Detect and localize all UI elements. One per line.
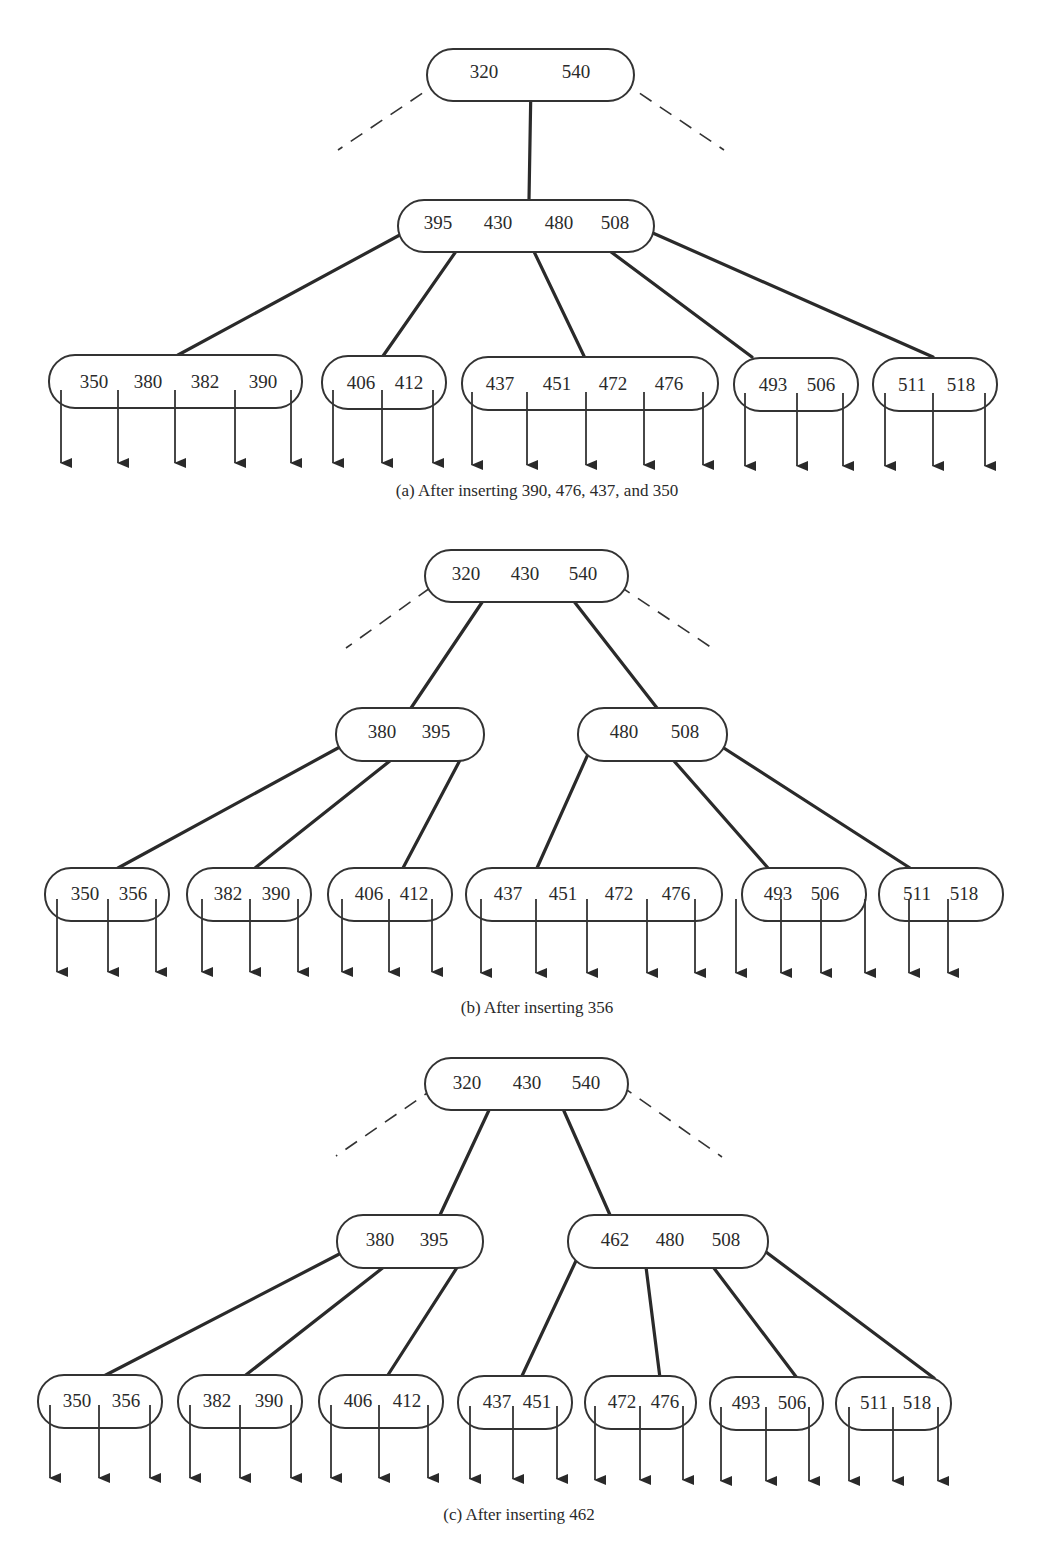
node-key: 356	[112, 1390, 141, 1411]
node-key: 412	[395, 372, 424, 393]
node-key: 406	[347, 372, 376, 393]
node-key: 380	[368, 721, 397, 742]
node-key: 476	[655, 373, 684, 394]
edge	[644, 1251, 660, 1378]
node-key: 430	[511, 563, 540, 584]
leaf-node: 350 356	[45, 868, 169, 921]
figure-caption: (b) After inserting 356	[461, 998, 614, 1017]
edge	[556, 1093, 610, 1215]
node-key: 506	[811, 883, 840, 904]
node-key: 320	[453, 1072, 482, 1093]
node-key: 518	[950, 883, 979, 904]
figure-a: 320 540 395 430 480 508 350 380 382 390 …	[49, 49, 997, 500]
edge	[758, 1246, 934, 1378]
node-key: 390	[255, 1390, 284, 1411]
node-key: 480	[610, 721, 639, 742]
node-key: 511	[903, 883, 931, 904]
node-key: 476	[662, 883, 691, 904]
edge	[562, 586, 657, 708]
node-key: 406	[344, 1390, 373, 1411]
leaf-node: 511 518	[879, 868, 1003, 921]
node-key: 506	[778, 1392, 807, 1413]
node-key: 350	[71, 883, 100, 904]
node-key: 320	[452, 563, 481, 584]
node-key: 506	[807, 374, 836, 395]
leaf-node: 437 451	[458, 1376, 572, 1429]
node-key: 472	[605, 883, 634, 904]
root-node: 320 430 540	[425, 550, 628, 602]
internal-node: 395 430 480 508	[398, 200, 654, 252]
node-key: 412	[400, 883, 429, 904]
edge	[118, 742, 349, 868]
node-key: 493	[732, 1392, 761, 1413]
node-key: 518	[903, 1392, 932, 1413]
internal-node: 380 395	[337, 1215, 483, 1268]
edge	[383, 237, 466, 356]
root-node: 320 540	[427, 49, 634, 101]
node-key: 451	[523, 1391, 552, 1412]
node-key: 406	[355, 883, 384, 904]
node-key: 430	[484, 212, 513, 233]
node-key: 380	[134, 371, 163, 392]
node-key: 390	[262, 883, 291, 904]
node-key: 437	[483, 1391, 512, 1412]
leaf-node: 493 506	[742, 868, 866, 921]
node-key: 382	[214, 883, 243, 904]
leaf-node: 382 390	[187, 868, 311, 921]
figure-caption: (a) After inserting 390, 476, 437, and 3…	[396, 481, 678, 500]
dashed-edge-left	[338, 80, 442, 150]
edge	[701, 1251, 797, 1378]
node-key: 412	[393, 1390, 422, 1411]
node-key: 480	[545, 212, 574, 233]
leaf-node: 406 412	[319, 1375, 443, 1428]
node-key: 356	[119, 883, 148, 904]
edge	[255, 745, 410, 868]
node-key: 380	[366, 1229, 395, 1250]
node-key: 437	[486, 373, 515, 394]
dashed-edge-right	[618, 585, 712, 648]
leaf-node: 350 356	[38, 1375, 162, 1428]
figure-caption: (c) After inserting 462	[443, 1505, 595, 1524]
edge	[527, 237, 584, 356]
node-key: 451	[549, 883, 578, 904]
node-key: 518	[947, 374, 976, 395]
node-key: 508	[601, 212, 630, 233]
node-key: 395	[424, 212, 453, 233]
internal-node: 480 508	[578, 708, 727, 761]
leaf-node: 511 518	[873, 358, 997, 411]
node-key: 320	[470, 61, 499, 82]
node-key: 493	[764, 883, 793, 904]
node-key: 451	[543, 373, 572, 394]
node-key: 540	[562, 61, 591, 82]
leaf-node: 406 412	[322, 356, 446, 409]
dashed-edge-left	[336, 1087, 436, 1156]
node-key: 390	[249, 371, 278, 392]
node-key: 511	[898, 374, 926, 395]
dashed-edge-right	[620, 1085, 722, 1157]
internal-node: 462 480 508	[568, 1215, 768, 1268]
node-key: 462	[601, 1229, 630, 1250]
figure-b: 320 430 540 380 395 480 508 350 356 382 …	[45, 550, 1003, 1017]
edge	[591, 237, 752, 357]
edge	[660, 745, 768, 868]
node-key: 508	[712, 1229, 741, 1250]
leaf-node: 437 451 472 476	[462, 357, 718, 410]
edge	[440, 1093, 497, 1215]
node-key: 395	[422, 721, 451, 742]
edge	[178, 230, 409, 355]
node-key: 476	[651, 1391, 680, 1412]
node-key: 480	[656, 1229, 685, 1250]
figure-c: 320 430 540 380 395 462 480 508 350 356 …	[38, 1058, 951, 1524]
dashed-edge-left	[346, 588, 430, 648]
leaf-node: 406 412	[328, 868, 452, 921]
node-key: 395	[420, 1229, 449, 1250]
node-key: 430	[513, 1072, 542, 1093]
root-node: 320 430 540	[425, 1058, 628, 1110]
node-key: 493	[759, 374, 788, 395]
internal-node: 380 395	[336, 708, 484, 761]
edge	[403, 745, 468, 868]
edge	[716, 743, 910, 868]
edge	[242, 1252, 403, 1378]
leaf-node: 437 451 472 476	[466, 868, 722, 921]
node-key: 472	[599, 373, 628, 394]
